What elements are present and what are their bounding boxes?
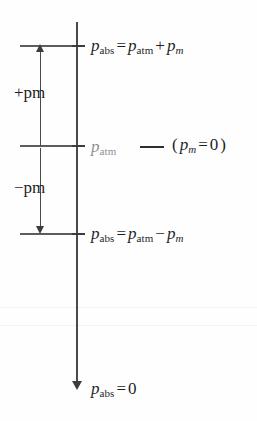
zero-eq-sub: abs <box>100 387 115 399</box>
bottom-eq-equals: = <box>114 224 128 243</box>
positive-gauge-subscript: m <box>32 83 45 102</box>
bottom-eq-sub2: atm <box>137 232 154 244</box>
pressure-scale-diagram: +pm −pm pabs=patm+pm patm (pm=0) pabs=pa… <box>0 0 257 421</box>
annotation-p: p <box>180 135 189 154</box>
equation-absolute-zero: pabs=0 <box>91 380 137 399</box>
zero-eq-equals: = <box>114 379 128 398</box>
zero-eq-p: p <box>91 379 100 398</box>
axis-bottom-arrowhead <box>72 381 82 390</box>
scan-band-upper <box>0 307 257 308</box>
positive-gauge-sign: + <box>14 83 24 102</box>
bottom-eq-sub1: abs <box>100 232 115 244</box>
atm-connector-dash <box>140 146 164 148</box>
zero-eq-value: 0 <box>128 379 137 398</box>
positive-gauge-arrowhead <box>36 44 44 52</box>
bottom-eq-sub3: m <box>175 232 183 244</box>
label-atmospheric-pressure: patm <box>91 138 116 157</box>
negative-gauge-label: −pm <box>14 179 45 196</box>
bottom-eq-p2: p <box>128 224 137 243</box>
negative-gauge-p: p <box>24 178 33 197</box>
top-eq-plus: + <box>153 36 167 55</box>
annotation-zero: 0 <box>210 135 219 154</box>
top-eq-p2: p <box>128 36 137 55</box>
negative-gauge-subscript: m <box>32 178 45 197</box>
negative-gauge-sign: − <box>14 178 24 197</box>
annotation-zero-gauge-pressure: (pm=0) <box>170 136 228 155</box>
scan-band-lower <box>0 325 257 326</box>
atm-label-sub: atm <box>100 145 117 157</box>
annotation-paren-close: ) <box>218 135 228 154</box>
equation-absolute-below-atm: pabs=patm−pm <box>91 225 183 244</box>
pressure-axis-line <box>76 22 78 388</box>
top-eq-equals: = <box>114 36 128 55</box>
atm-label-p: p <box>91 137 100 156</box>
top-eq-sub3: m <box>175 44 183 56</box>
bottom-eq-minus: − <box>153 224 167 243</box>
top-eq-p1: p <box>91 36 100 55</box>
positive-gauge-label: +pm <box>14 84 45 101</box>
leader-rule-top <box>20 45 72 47</box>
leader-rule-middle <box>20 145 72 147</box>
top-eq-sub1: abs <box>100 44 115 56</box>
annotation-equals: = <box>196 135 210 154</box>
annotation-paren-open: ( <box>170 135 180 154</box>
top-eq-sub2: atm <box>137 44 154 56</box>
annotation-sub: m <box>188 143 196 155</box>
leader-rule-bottom <box>20 233 72 235</box>
negative-gauge-arrowhead <box>36 226 44 234</box>
positive-gauge-p: p <box>24 83 33 102</box>
bottom-eq-p1: p <box>91 224 100 243</box>
equation-absolute-above-atm: pabs=patm+pm <box>91 37 183 56</box>
